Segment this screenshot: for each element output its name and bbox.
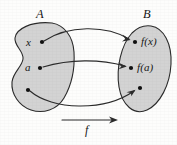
set-b-label: B (143, 8, 151, 21)
function-mapping-figure: A B x a f(x) f(a) f (0, 0, 177, 145)
domain-point-lower-dot (26, 88, 30, 92)
codomain-point-fx-dot (133, 40, 137, 44)
domain-point-x-dot (40, 40, 44, 44)
codomain-point-lower-dot (138, 86, 142, 90)
domain-point-x-label: x (26, 37, 31, 48)
codomain-point-fx-label: f(x) (141, 36, 157, 47)
function-arrow-label: f (85, 124, 88, 136)
domain-point-a-dot (38, 66, 42, 70)
set-a-label: A (36, 8, 44, 21)
codomain-point-fa-label: f(a) (137, 62, 153, 73)
domain-point-a-label: a (25, 62, 31, 73)
codomain-point-fa-dot (129, 66, 133, 70)
